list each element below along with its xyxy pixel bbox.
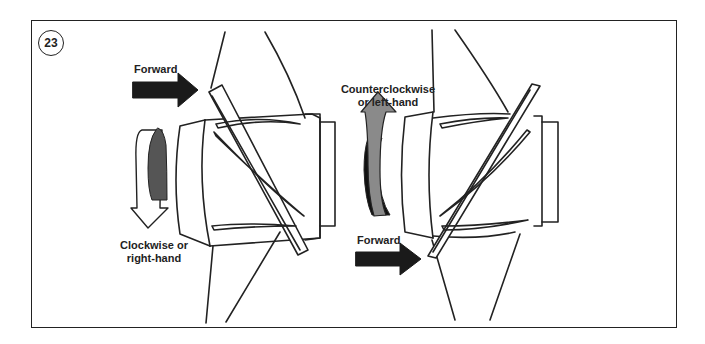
clockwise-rotation-arrow: [131, 128, 168, 228]
forward-arrow-left: [133, 73, 198, 107]
clockwise-label-line1: Clockwise or: [111, 239, 197, 252]
right-propeller: [402, 30, 559, 320]
counterclockwise-label-line2: or left-hand: [338, 96, 438, 109]
forward-label-right: Forward: [357, 234, 400, 247]
counterclockwise-label-line1: Counterclockwise: [338, 83, 438, 96]
clockwise-label-line2: right-hand: [111, 252, 197, 265]
left-propeller: [176, 32, 335, 323]
clockwise-label: Clockwise or right-hand: [111, 239, 197, 265]
propeller-diagram: [0, 0, 705, 344]
counterclockwise-rotation-arrow: [361, 92, 396, 216]
counterclockwise-label: Counterclockwise or left-hand: [338, 83, 438, 109]
forward-label-left: Forward: [134, 63, 177, 76]
forward-arrow-right: [356, 243, 421, 275]
